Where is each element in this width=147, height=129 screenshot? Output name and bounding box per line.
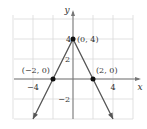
data-point bbox=[51, 77, 56, 82]
y-tick-label: −2 bbox=[58, 95, 70, 104]
graph: xy−4442−2(0, 4)(−2, 0)(2, 0) bbox=[0, 0, 147, 129]
x-tick-label: 4 bbox=[110, 83, 115, 92]
point-label: (−2, 0) bbox=[22, 66, 50, 75]
point-label: (2, 0) bbox=[96, 66, 118, 75]
x-axis-label: x bbox=[137, 82, 142, 92]
y-axis-arrow-icon bbox=[71, 10, 75, 16]
point-label: (0, 4) bbox=[77, 35, 99, 44]
y-axis-label: y bbox=[63, 5, 70, 15]
x-axis-arrow-icon bbox=[135, 77, 141, 81]
labels: xy−4442−2(0, 4)(−2, 0)(2, 0) bbox=[22, 5, 143, 104]
data-point bbox=[91, 77, 96, 82]
y-tick-label: 4 bbox=[66, 35, 71, 44]
y-tick-label: 2 bbox=[65, 55, 70, 64]
x-tick-label: −4 bbox=[27, 83, 39, 92]
data-point bbox=[71, 37, 76, 42]
